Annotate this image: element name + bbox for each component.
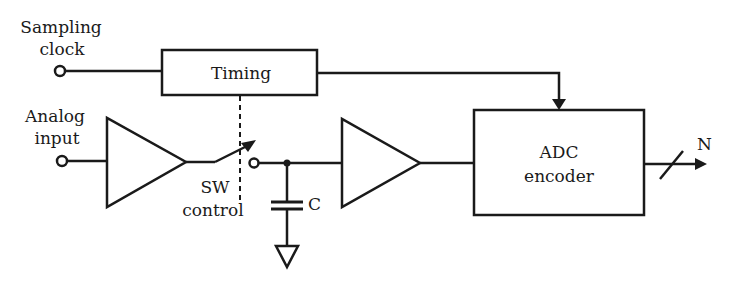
adc-label-line1: ADC: [539, 142, 579, 162]
switch-arrow-icon: [241, 140, 256, 152]
switch-contact: [250, 159, 259, 168]
adc-label-line2: encoder: [524, 166, 595, 186]
timing-label: Timing: [211, 63, 271, 83]
capacitor-label: C: [308, 194, 321, 214]
adc-encoder-block: [474, 110, 644, 215]
switch-lever: [215, 146, 247, 162]
analog-input-label-line1: Analog: [24, 106, 85, 126]
switch-label-line2: control: [182, 200, 243, 220]
analog-input-label-line2: input: [34, 128, 79, 148]
timing-to-adc-wire: [317, 73, 559, 103]
sampling-clock-terminal: [55, 66, 65, 76]
output-arrowhead-icon: [695, 158, 707, 170]
switch-label-line1: SW: [200, 177, 230, 197]
sampling-clock-label-line1: Sampling: [20, 17, 102, 37]
sampling-clock-label-line2: clock: [39, 39, 85, 59]
sample-hold-adc-diagram: Sampling clock Analog input Timing SW co…: [0, 0, 729, 289]
ground-icon: [276, 246, 298, 267]
output-buffer-amplifier: [342, 119, 420, 207]
output-bits-label: N: [697, 134, 712, 154]
timing-arrowhead-icon: [552, 99, 566, 110]
input-buffer-amplifier: [107, 118, 186, 207]
analog-input-terminal: [57, 156, 67, 166]
